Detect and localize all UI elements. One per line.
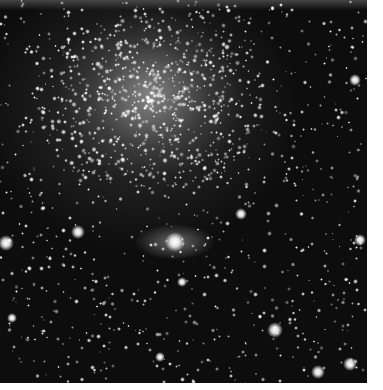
star: [302, 128, 305, 131]
star: [185, 24, 189, 28]
star: [27, 188, 29, 190]
star: [248, 257, 250, 259]
star: [231, 129, 235, 133]
star: [355, 175, 360, 180]
star: [203, 115, 206, 118]
star: [166, 54, 169, 57]
star: [342, 291, 346, 295]
star: [229, 55, 233, 59]
star: [238, 46, 241, 49]
star: [326, 57, 328, 59]
star: [207, 105, 212, 110]
star: [91, 63, 94, 66]
star: [93, 131, 97, 135]
star: [325, 252, 328, 255]
star: [298, 309, 300, 311]
star: [41, 106, 44, 109]
star: [262, 180, 266, 184]
star: [291, 262, 295, 266]
star: [62, 343, 65, 346]
star: [68, 216, 72, 220]
star: [343, 342, 347, 346]
star: [177, 277, 187, 287]
star: [96, 23, 98, 25]
star: [49, 57, 52, 60]
star: [216, 3, 220, 7]
star: [240, 93, 244, 97]
star: [182, 52, 186, 56]
star: [68, 239, 71, 242]
star: [145, 207, 150, 212]
star: [175, 147, 179, 151]
star: [27, 304, 30, 307]
star: [355, 246, 358, 249]
star: [134, 110, 137, 113]
star: [64, 107, 67, 110]
star: [53, 299, 57, 303]
star: [85, 29, 90, 34]
star: [363, 308, 367, 312]
star: [21, 336, 23, 338]
star: [131, 56, 135, 60]
star: [349, 89, 353, 93]
star: [238, 151, 240, 153]
star: [218, 57, 221, 60]
star: [96, 305, 98, 307]
star: [226, 58, 228, 60]
star: [130, 298, 135, 303]
star: [134, 117, 137, 120]
star: [335, 306, 339, 310]
star: [176, 63, 179, 66]
star: [300, 110, 304, 114]
star: [6, 161, 8, 163]
star: [28, 192, 31, 195]
star: [355, 288, 359, 292]
star: [287, 167, 290, 170]
star: [157, 22, 160, 25]
star: [178, 364, 180, 366]
star: [56, 154, 60, 158]
star: [99, 44, 104, 49]
star: [148, 187, 151, 190]
star: [244, 182, 249, 187]
star: [336, 115, 341, 120]
star: [122, 28, 126, 32]
star: [29, 50, 34, 55]
star: [10, 190, 13, 193]
star: [23, 173, 27, 177]
star: [148, 348, 152, 352]
star: [21, 123, 25, 127]
star: [209, 144, 212, 147]
star: [220, 65, 225, 70]
star: [24, 224, 29, 229]
star: [46, 256, 48, 258]
star: [78, 183, 80, 185]
star: [154, 61, 157, 64]
star: [254, 79, 256, 81]
star: [235, 208, 247, 220]
star: [7, 328, 11, 332]
star: [199, 87, 201, 89]
star: [302, 195, 304, 197]
star: [108, 297, 110, 299]
star: [151, 105, 154, 108]
star: [121, 143, 125, 147]
star: [135, 330, 137, 332]
star: [174, 107, 178, 111]
star: [313, 128, 317, 132]
star: [230, 271, 233, 274]
star: [215, 216, 219, 220]
star: [47, 227, 49, 229]
star: [174, 74, 176, 76]
star: [137, 82, 141, 86]
star: [346, 323, 350, 327]
star: [294, 326, 298, 330]
star: [65, 99, 68, 102]
star: [343, 36, 346, 39]
star: [72, 31, 77, 36]
star: [48, 142, 50, 144]
star: [214, 273, 219, 278]
star: [151, 124, 155, 128]
star: [319, 104, 322, 107]
top-edge-band: [0, 0, 367, 10]
